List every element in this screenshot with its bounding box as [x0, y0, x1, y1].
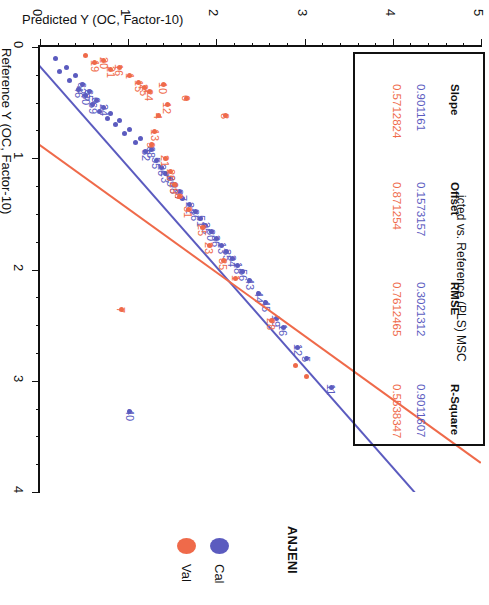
- data-point-label: 25: [196, 224, 207, 236]
- stats-cell-cal: 0.3021312: [415, 282, 427, 336]
- data-point: [133, 140, 138, 145]
- data-point-label: 69: [87, 102, 98, 114]
- x-tick-label: 2: [206, 9, 221, 16]
- data-point-label: 24: [98, 104, 109, 116]
- x-tick-label: 3: [295, 9, 310, 16]
- data-point-label: 24: [143, 89, 154, 101]
- x-tick-label: 0: [30, 9, 45, 16]
- x-axis-title: Predicted Y (OC, Factor-10): [22, 12, 183, 27]
- statistics-table: SlopeOffsetRMSER-Square0.9011610.1573157…: [353, 52, 485, 446]
- data-point-label: 7: [115, 307, 126, 313]
- x-tick-major: [40, 39, 41, 47]
- data-point: [138, 136, 143, 141]
- data-point: [64, 65, 69, 70]
- data-point-label: 10: [157, 82, 168, 94]
- data-point: [73, 73, 78, 78]
- data-point: [117, 118, 122, 123]
- data-point-label: 6: [180, 95, 191, 101]
- stats-cell-cal: 0.9011607: [415, 384, 427, 438]
- data-point: [108, 111, 113, 116]
- data-point-label: 13: [149, 129, 160, 141]
- x-tick-major: [216, 39, 217, 47]
- y-tick-label: 4: [11, 486, 26, 493]
- legend: ANJENI CalVal: [165, 520, 335, 600]
- data-point-label: 1: [124, 73, 135, 79]
- data-point: [127, 127, 132, 132]
- stats-cell-val: 0.5538347: [391, 384, 403, 438]
- x-tick-major: [393, 39, 394, 47]
- legend-label-val: Val: [179, 564, 194, 582]
- stats-cell-val: 0.5712824: [391, 84, 403, 138]
- data-point: [57, 69, 62, 74]
- x-tick-label: 5: [471, 9, 486, 16]
- data-point: [304, 374, 309, 379]
- data-point-label: 4: [152, 113, 163, 119]
- stats-cell-val: 0.7612465: [391, 282, 403, 336]
- stats-cell-val: 0.871254: [391, 182, 403, 230]
- data-point-label: 1: [230, 275, 241, 281]
- y-tick-major: [32, 270, 40, 271]
- data-point: [53, 56, 58, 61]
- legend-label-cal: Cal: [212, 564, 227, 584]
- x-tick-major: [128, 39, 129, 47]
- x-tick-major: [305, 39, 306, 47]
- y-tick-major: [32, 158, 40, 159]
- stats-cell-cal: 0.1573157: [415, 182, 427, 236]
- y-tick-label: 3: [11, 375, 26, 382]
- data-point-label: 8: [219, 113, 230, 119]
- y-tick-label: 1: [11, 152, 26, 159]
- y-tick-label: 0: [11, 41, 26, 48]
- data-point-label: 26: [165, 169, 176, 181]
- y-tick-label: 2: [11, 264, 26, 271]
- data-point: [67, 78, 72, 83]
- stats-column-header: RMSE: [449, 282, 461, 315]
- data-point: [113, 122, 118, 127]
- chart-root: Predicted Y (OC, Factor-10) 012345 Refer…: [0, 0, 489, 605]
- y-tick-major: [32, 492, 40, 493]
- y-axis-title: Reference Y (OC, Factor-10): [0, 48, 14, 214]
- stats-column-header: Slope: [449, 84, 461, 115]
- stats-column-header: R-Square: [449, 384, 461, 435]
- data-point-label: 35: [217, 258, 228, 270]
- data-point-label: 43: [244, 278, 255, 290]
- data-point-label: 6: [90, 97, 101, 103]
- data-point: [105, 116, 110, 121]
- data-point: [122, 131, 127, 136]
- stats-column-header: Offset: [449, 182, 461, 215]
- data-point-label: 21: [159, 155, 170, 167]
- data-point-label: 0: [173, 193, 184, 199]
- legend-marker-val: [177, 538, 196, 554]
- x-tick-major: [481, 39, 482, 47]
- data-point-label: 16: [277, 324, 288, 336]
- y-tick-major: [32, 47, 40, 48]
- y-tick-major: [32, 381, 40, 382]
- data-point-label: 23: [203, 242, 214, 254]
- legend-marker-cal: [210, 538, 229, 554]
- data-point-label: 5: [300, 356, 311, 362]
- stats-cell-cal: 0.901161: [415, 84, 427, 131]
- x-tick-label: 4: [383, 9, 398, 16]
- data-point: [293, 363, 298, 368]
- data-point-label: 40: [124, 409, 135, 421]
- data-point-label: 31: [182, 206, 193, 218]
- data-point-label: 11: [325, 384, 336, 395]
- legend-title: ANJENI: [285, 526, 300, 574]
- data-point-label: 9: [145, 142, 156, 148]
- data-point-label: 28: [265, 318, 276, 330]
- x-tick-label: 1: [118, 9, 133, 16]
- data-point-label: 16: [113, 64, 124, 76]
- data-point: [83, 53, 88, 58]
- data-point-label: 12: [292, 344, 303, 356]
